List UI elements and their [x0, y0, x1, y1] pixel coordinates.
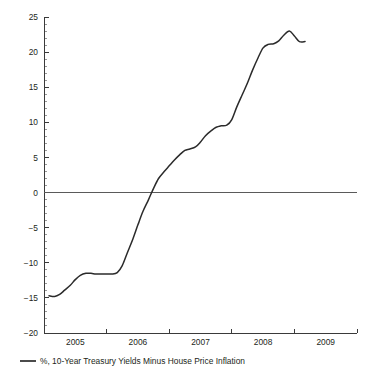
y-axis-major-ticks	[44, 17, 49, 333]
y-tick-label: −20	[24, 328, 39, 338]
x-axis-minor-ticks	[44, 329, 357, 333]
y-tick-label: 0	[33, 188, 38, 198]
y-tick-label: 15	[29, 82, 39, 92]
y-tick-label: 20	[29, 47, 39, 57]
line-chart: 2520151050−5−10−15−20 200520062007200820…	[0, 0, 379, 380]
y-tick-label: 25	[29, 12, 39, 22]
y-tick-label: 10	[29, 117, 39, 127]
x-tick-label: 2005	[66, 337, 85, 347]
y-tick-label: 5	[33, 153, 38, 163]
chart-container: 2520151050−5−10−15−20 200520062007200820…	[0, 0, 379, 380]
y-tick-label: −15	[24, 293, 39, 303]
legend-label: %, 10-Year Treasury Yields Minus House P…	[40, 356, 245, 366]
x-tick-label: 2006	[129, 337, 148, 347]
x-axis-tick-labels: 20052006200720082009	[66, 337, 335, 347]
y-tick-label: −5	[28, 223, 38, 233]
x-tick-label: 2008	[254, 337, 273, 347]
x-tick-label: 2007	[191, 337, 210, 347]
y-tick-label: −10	[24, 258, 39, 268]
legend: %, 10-Year Treasury Yields Minus House P…	[20, 356, 245, 366]
data-series-treasury-minus-house-price-inflation	[49, 31, 305, 296]
x-tick-label: 2009	[316, 337, 335, 347]
y-axis-tick-labels: 2520151050−5−10−15−20	[24, 12, 39, 338]
